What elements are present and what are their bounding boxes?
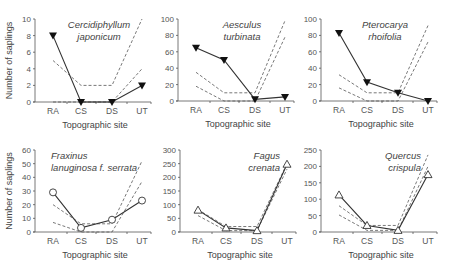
chart-panel-4: 0102030405060RACSDSUTTopographic siteNum… (4, 146, 151, 260)
y-tick-label: 0 (313, 228, 318, 237)
x-tick-label: CS (75, 106, 87, 116)
y-tick-label: 80 (165, 31, 174, 40)
y-tick-label: 0 (27, 98, 32, 107)
circle-marker (50, 189, 57, 196)
observed-line (53, 36, 142, 102)
circle-marker (78, 224, 85, 231)
triangle-up-marker (194, 206, 202, 213)
x-tick-label: RA (47, 236, 59, 246)
triangle-up-marker (335, 191, 343, 198)
y-tick-label: 40 (22, 173, 31, 182)
x-tick-label: CS (361, 105, 373, 115)
y-tick-label: 20 (308, 81, 317, 90)
x-axis-title: Topographic site (62, 120, 128, 130)
x-tick-label: RA (190, 105, 202, 115)
y-tick-label: 250 (163, 160, 177, 169)
y-tick-label: 20 (22, 201, 31, 210)
limit-line (339, 42, 428, 101)
x-tick-label: UT (136, 236, 147, 246)
y-tick-label: 150 (304, 179, 318, 188)
limit-line (196, 37, 285, 101)
y-tick-label: 10 (22, 15, 31, 24)
y-axis-title: Number of saplings (4, 152, 14, 230)
y-tick-label: 30 (22, 187, 31, 196)
observed-line (198, 164, 287, 230)
species-title: crenata (248, 162, 280, 173)
x-tick-label: DS (251, 236, 263, 246)
x-tick-label: CS (218, 105, 230, 115)
y-tick-label: 0 (172, 228, 177, 237)
y-tick-label: 150 (163, 187, 177, 196)
species-title: lanuginosa f. serrata (51, 162, 137, 173)
triangle-down-marker (192, 45, 200, 52)
x-axis-title: Topographic site (348, 250, 414, 260)
x-axis-title: Topographic site (205, 119, 271, 129)
y-tick-label: 200 (163, 173, 177, 182)
limit-line (53, 181, 142, 232)
observed-line (196, 48, 285, 100)
species-title: Cercidiphyllum (68, 19, 130, 30)
triangle-down-marker (49, 33, 57, 40)
chart-panel-3: 020406080100RACSDSUTTopographic sitePter… (304, 15, 437, 129)
y-tick-label: 4 (27, 65, 32, 74)
y-tick-label: 100 (304, 15, 318, 24)
y-tick-label: 0 (170, 97, 175, 106)
x-tick-label: UT (281, 236, 292, 246)
chart-panel-1: 0246810RACSDSUTTopographic siteNumber of… (4, 15, 151, 130)
x-tick-label: CS (361, 236, 373, 246)
species-title: Pterocarya (362, 19, 408, 30)
chart-panel-6: 050100150200250RACSDSUTTopographic siteQ… (304, 146, 437, 260)
x-tick-label: CS (75, 236, 87, 246)
y-axis-title: Number of saplings (4, 21, 14, 99)
x-tick-label: UT (422, 105, 433, 115)
x-tick-label: RA (333, 236, 345, 246)
species-title: turbinata (224, 31, 261, 42)
species-title: crispula (388, 162, 421, 173)
y-tick-label: 50 (167, 214, 176, 223)
chart-panel-5: 050100150200250300RACSDSUTTopographic si… (163, 146, 296, 260)
y-tick-label: 20 (165, 81, 174, 90)
y-tick-label: 0 (313, 97, 318, 106)
x-axis-title: Topographic site (348, 119, 414, 129)
species-title: Fagus (254, 150, 281, 161)
y-tick-label: 10 (22, 214, 31, 223)
observed-line (339, 33, 428, 101)
x-tick-label: DS (392, 236, 404, 246)
triangle-down-marker (424, 98, 432, 105)
species-title: rhoifolia (368, 31, 401, 42)
x-tick-label: DS (106, 236, 118, 246)
species-title: Aesculus (222, 19, 262, 30)
y-tick-label: 100 (304, 195, 318, 204)
y-tick-label: 2 (27, 81, 32, 90)
y-tick-label: 60 (165, 48, 174, 57)
x-tick-label: RA (47, 106, 59, 116)
y-tick-label: 250 (304, 146, 318, 155)
y-tick-label: 50 (22, 160, 31, 169)
species-title: Fraxinus (51, 150, 88, 161)
x-tick-label: CS (220, 236, 232, 246)
x-tick-label: DS (106, 106, 118, 116)
y-tick-label: 100 (161, 15, 175, 24)
y-tick-label: 40 (165, 64, 174, 73)
y-tick-label: 100 (163, 201, 177, 210)
chart-panel-2: 020406080100RACSDSUTTopographic siteAesc… (161, 15, 294, 129)
species-title: japonicum (75, 31, 120, 42)
y-tick-label: 60 (22, 146, 31, 155)
y-tick-label: 8 (27, 32, 32, 41)
circle-marker (109, 216, 116, 223)
x-tick-label: UT (136, 106, 147, 116)
x-axis-title: Topographic site (62, 250, 128, 260)
y-tick-label: 300 (163, 146, 177, 155)
species-title: Quercus (385, 150, 421, 161)
limit-line (198, 169, 287, 231)
triangle-up-marker (222, 224, 230, 231)
y-tick-label: 0 (27, 228, 32, 237)
y-tick-label: 6 (27, 48, 32, 57)
x-tick-label: RA (192, 236, 204, 246)
triangle-down-marker (251, 96, 259, 103)
x-tick-label: UT (279, 105, 290, 115)
triangle-up-marker (283, 160, 291, 167)
y-tick-label: 80 (308, 31, 317, 40)
circle-marker (139, 197, 146, 204)
limit-line (53, 69, 142, 102)
